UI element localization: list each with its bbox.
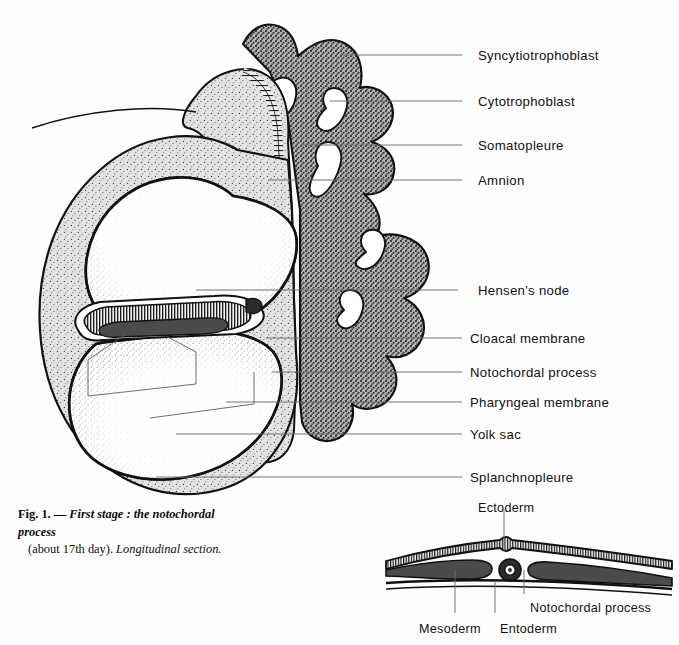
label-cloacal-membrane: Cloacal membrane	[470, 331, 585, 346]
label-pharyngeal-membrane: Pharyngeal membrane	[470, 395, 609, 410]
label-splanchnopleure: Splanchnopleure	[470, 470, 573, 485]
caption-dash: —	[54, 507, 66, 521]
label-notochordal-process: Notochordal process	[530, 601, 651, 615]
label-yolk-sac: Yolk sac	[470, 427, 521, 442]
figure-caption: Fig. 1. — First stage : the notochordal …	[18, 506, 242, 559]
label-mesoderm: Mesoderm	[419, 622, 481, 636]
label-entoderm: Entoderm	[500, 622, 557, 636]
label-syncytiotrophoblast: Syncytiotrophoblast	[478, 48, 599, 63]
caption-detail: (about 17th day).	[28, 542, 113, 556]
label-notochordal-process: Notochordal process	[470, 365, 597, 380]
label-cytotrophoblast: Cytotrophoblast	[478, 94, 575, 109]
figure-root: SyncytiotrophoblastCytotrophoblastSomato…	[0, 0, 679, 645]
caption-section-note: Longitudinal section.	[116, 542, 221, 556]
label-somatopleure: Somatopleure	[478, 138, 564, 153]
caption-fig-number: Fig. 1.	[18, 507, 51, 521]
label-hensens-node: Hensen's node	[478, 283, 569, 298]
label-ectoderm: Ectoderm	[478, 501, 534, 515]
label-amnion: Amnion	[478, 173, 525, 188]
